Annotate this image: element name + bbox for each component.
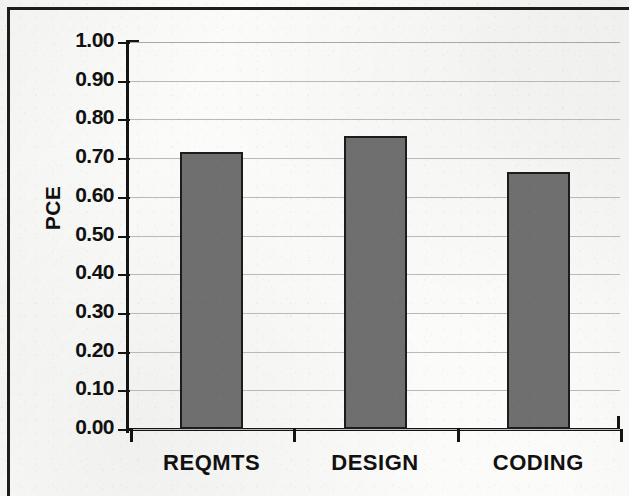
bar	[344, 136, 407, 429]
y-axis-tick-label: 0.10	[24, 376, 114, 400]
x-axis-tick	[457, 429, 460, 442]
y-axis-tick-label: 0.50	[24, 222, 114, 246]
gridline	[130, 42, 620, 43]
y-axis-tick-label: 0.00	[24, 415, 114, 439]
y-axis-tick-label: 0.60	[24, 183, 114, 207]
x-axis-category-label: REQMTS	[130, 450, 293, 476]
gridline	[130, 429, 620, 430]
bar-chart-figure: PCE 1.000.900.800.700.600.500.400.300.20…	[0, 0, 629, 496]
gridline	[130, 81, 620, 82]
bar	[507, 172, 570, 429]
page-frame-top-rule	[7, 7, 629, 10]
gridline	[130, 119, 620, 120]
x-axis-tick	[293, 429, 296, 442]
y-axis-tick-label: 0.70	[24, 144, 114, 168]
bar	[180, 152, 243, 429]
y-axis-tick-label: 0.40	[24, 260, 114, 284]
page-frame-left-rule	[7, 7, 10, 496]
x-axis-category-label: CODING	[457, 450, 620, 476]
y-axis-spine	[126, 40, 129, 433]
y-axis-tick-label: 0.90	[24, 67, 114, 91]
x-axis-tick	[620, 429, 623, 442]
plot-area	[130, 42, 620, 429]
x-axis-category-label: DESIGN	[293, 450, 456, 476]
y-axis-tick-label: 0.80	[24, 105, 114, 129]
y-axis-tick-label: 0.20	[24, 338, 114, 362]
y-axis-tick-label: 1.00	[24, 28, 114, 52]
y-axis-tick-label: 0.30	[24, 299, 114, 323]
x-axis-tick	[130, 429, 133, 442]
